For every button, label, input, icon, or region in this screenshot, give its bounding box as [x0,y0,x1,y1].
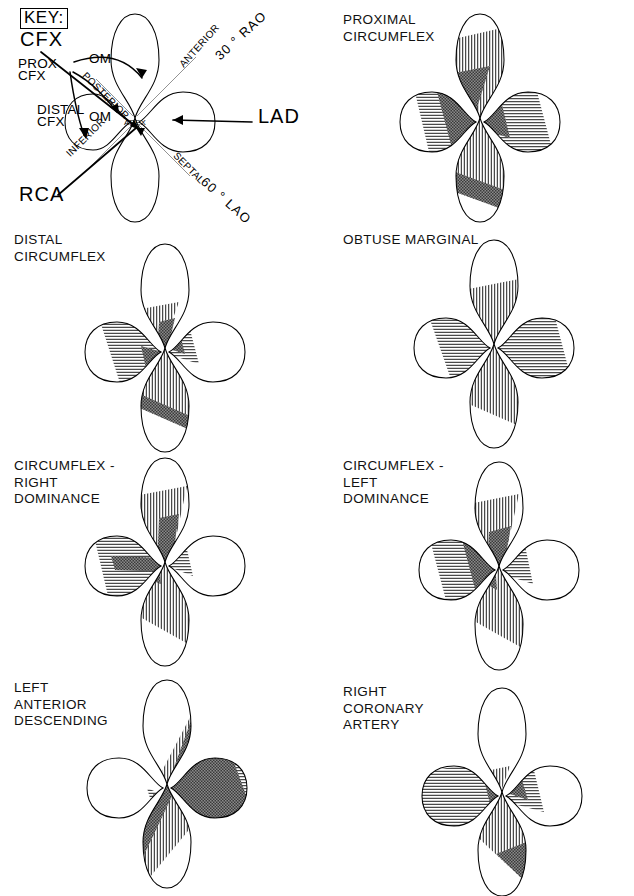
panel-key: KEY: CFX PROX CFX DISTAL CFX OM OM RCA L… [0,0,317,224]
panel-circumflex-right-dominance: CIRCUMFLEX - RIGHT DOMINANCE [0,448,317,672]
flower-circumflex-right-dominance [0,448,317,672]
panel-distal-circumflex: DISTAL CIRCUMFLEX [0,224,317,448]
key-flower-diagram [0,0,317,224]
flower-circumflex-left-dominance [317,448,634,672]
panel-left-anterior-descending: LEFT ANTERIOR DESCENDING [0,672,317,896]
flower-right-coronary-artery [317,672,634,896]
flower-obtuse-marginal [317,224,634,448]
panel-proximal-circumflex: PROXIMAL CIRCUMFLEX [317,0,634,224]
panel-circumflex-left-dominance: CIRCUMFLEX - LEFT DOMINANCE [317,448,634,672]
flower-left-anterior-descending [0,672,317,896]
flower-distal-circumflex [0,224,317,448]
flower-proximal-circumflex [317,0,634,224]
panel-obtuse-marginal: OBTUSE MARGINAL [317,224,634,448]
panel-right-coronary-artery: RIGHT CORONARY ARTERY [317,672,634,896]
